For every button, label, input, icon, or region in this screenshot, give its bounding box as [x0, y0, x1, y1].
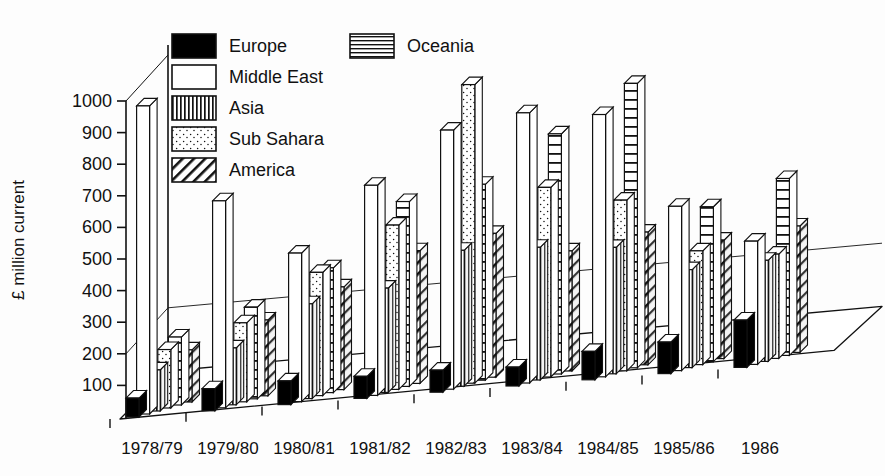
bar-side-face: [496, 226, 504, 377]
bar-side-face: [692, 262, 700, 367]
bar-side-face: [181, 330, 189, 405]
y-tick-label: 200: [82, 344, 112, 364]
y-axis-title-text: £ million current: [9, 180, 28, 300]
bar: [202, 381, 223, 411]
bar: [278, 373, 299, 404]
bar: [658, 335, 679, 374]
bar-side-face: [800, 219, 808, 353]
bar-side-face: [420, 243, 428, 383]
bar-side-face: [268, 312, 276, 395]
y-tick-label: 100: [82, 375, 112, 395]
bar-front-face: [278, 381, 291, 405]
bar-side-face: [226, 193, 234, 407]
y-axis-top-connector: [126, 55, 168, 101]
bar-side-face: [409, 194, 417, 386]
bar-side-face: [606, 107, 614, 377]
bar-side-face: [616, 240, 624, 374]
legend-item: America: [172, 158, 296, 182]
bar-side-face: [454, 123, 462, 390]
bar-side-face: [637, 76, 645, 368]
bar-side-face: [323, 265, 331, 396]
bar-side-face: [302, 246, 310, 402]
legend-item: Oceania: [350, 34, 475, 58]
bar-side-face: [171, 342, 179, 408]
legend-item: Sub Sahara: [172, 127, 325, 151]
bar-side-face: [485, 177, 493, 380]
bar-side-face: [475, 77, 483, 383]
bar-front-face: [582, 351, 595, 379]
bar-side-face: [312, 296, 320, 398]
bar-front-face: [658, 342, 671, 374]
bar-side-face: [540, 240, 548, 380]
bar: [517, 105, 538, 383]
bar-front-face: [137, 106, 150, 414]
x-tick-label: 1982/83: [425, 439, 486, 458]
bar: [441, 123, 462, 390]
legend-label: Middle East: [229, 67, 323, 87]
bar-side-face: [378, 178, 386, 396]
y-tick-label: 600: [82, 217, 112, 237]
bar-side-face: [682, 199, 690, 371]
x-tick-label: 1979/80: [197, 439, 258, 458]
legend-swatch: [350, 34, 394, 58]
y-tick-label: 700: [82, 186, 112, 206]
bar-side-face: [388, 281, 396, 393]
legend-item: Asia: [172, 96, 265, 120]
legend-swatch: [172, 34, 216, 58]
bar: [430, 363, 451, 393]
bar-group: [278, 246, 352, 405]
legend-swatch: [172, 96, 216, 120]
x-tick-label: 1985/86: [653, 439, 714, 458]
bar-front-face: [213, 201, 226, 408]
bar-side-face: [333, 260, 341, 392]
bar-group: [734, 171, 808, 367]
bar: [213, 193, 234, 407]
bar-side-face: [703, 243, 711, 364]
bar-side-face: [768, 253, 776, 362]
bar-side-face: [192, 342, 200, 402]
bar-front-face: [365, 185, 378, 395]
chart-figure: 1002003004005006007008009001000 1978/791…: [0, 0, 885, 476]
bar-side-face: [789, 171, 797, 355]
bar-front-face: [202, 389, 215, 411]
bar-side-face: [713, 199, 721, 361]
bar-side-face: [464, 243, 472, 386]
x-tick-label: 1980/81: [273, 439, 334, 458]
bar-group: [506, 105, 580, 386]
bar-group: [202, 193, 276, 410]
bar-front-face: [441, 130, 454, 389]
legend-label: Asia: [229, 98, 265, 118]
bar-side-face: [530, 105, 538, 383]
bar: [734, 313, 755, 368]
bar-side-face: [758, 234, 766, 365]
y-tick-label: 400: [82, 281, 112, 301]
bar: [582, 344, 603, 380]
bar: [354, 369, 375, 399]
bar: [365, 178, 386, 396]
bar-front-face: [354, 376, 367, 398]
legend-label: Europe: [229, 36, 287, 56]
bar-series-group: [126, 76, 808, 417]
bar-group: [582, 76, 656, 380]
y-tick-label: 500: [82, 249, 112, 269]
legend-swatch: [172, 158, 216, 182]
x-tick-label: 1983/84: [501, 439, 562, 458]
bar-side-face: [747, 313, 755, 368]
bar: [593, 107, 614, 377]
y-tick-label: 1000: [72, 91, 112, 111]
bar-chart-3d: 1002003004005006007008009001000 1978/791…: [0, 0, 885, 476]
bar-side-face: [344, 279, 352, 389]
bar-side-face: [257, 300, 265, 399]
legend-item: Europe: [172, 34, 287, 58]
legend-item: Middle East: [172, 65, 323, 89]
y-axis-title: £ million current: [9, 180, 28, 300]
chart-legend: EuropeMiddle EastAsiaSub SaharaAmericaOc…: [172, 34, 475, 182]
x-tick-label: 1986: [741, 439, 779, 458]
bar-front-face: [734, 320, 747, 367]
bar-side-face: [160, 362, 168, 411]
bar-side-face: [561, 126, 569, 374]
bar-side-face: [399, 218, 407, 390]
bar-side-face: [150, 98, 158, 414]
y-tick-label: 800: [82, 154, 112, 174]
bar-side-face: [247, 315, 255, 402]
